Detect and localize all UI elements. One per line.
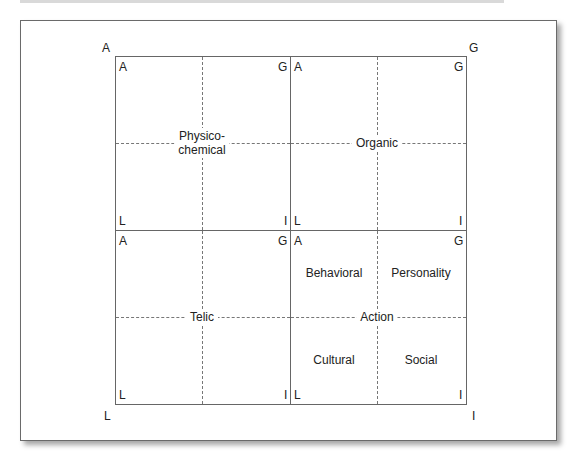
corner-g: G xyxy=(454,235,463,247)
sub-label-behavioral: Behavioral xyxy=(306,266,363,280)
corner-g: G xyxy=(278,61,287,73)
sub-label-social: Social xyxy=(405,353,438,367)
corner-i: I xyxy=(284,215,287,227)
corner-a: A xyxy=(119,61,127,73)
quadrant-title-organic: Organic xyxy=(352,135,402,151)
corner-a: A xyxy=(119,235,127,247)
outer-corner-g: G xyxy=(469,42,478,54)
corner-l: L xyxy=(294,389,301,401)
corner-l: L xyxy=(119,215,126,227)
corner-i: I xyxy=(459,389,462,401)
top-rule xyxy=(20,0,504,3)
corner-a: A xyxy=(294,61,302,73)
outer-corner-i: I xyxy=(472,410,475,422)
corner-i: I xyxy=(284,389,287,401)
outer-corner-a: A xyxy=(102,42,110,54)
corner-a: A xyxy=(294,235,302,247)
corner-g: G xyxy=(454,61,463,73)
sub-label-personality: Personality xyxy=(391,266,450,280)
corner-l: L xyxy=(119,389,126,401)
corner-i: I xyxy=(459,215,462,227)
corner-l: L xyxy=(294,215,301,227)
quadrant-title-action: Action xyxy=(356,309,397,325)
corner-g: G xyxy=(278,235,287,247)
quadrant-title-physicochemical: Physico- chemical xyxy=(174,128,229,158)
quadrant-title-telic: Telic xyxy=(186,309,218,325)
outer-corner-l: L xyxy=(104,410,111,422)
sub-label-cultural: Cultural xyxy=(313,353,354,367)
